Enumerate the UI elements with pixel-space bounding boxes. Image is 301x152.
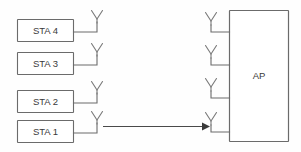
station-label-sta-1: STA 1: [33, 126, 58, 137]
antenna-icon-ap-3: [206, 79, 230, 99]
antenna-icon-ap-4: [206, 113, 230, 133]
station-lead-sta-3: [74, 55, 98, 65]
access-point-group: AP: [206, 11, 289, 142]
antenna-icon-ap-1: [206, 13, 230, 33]
antenna-icon-sta-1: [92, 112, 103, 125]
antenna-icon-sta-4: [92, 11, 103, 24]
network-diagram: STA 4 STA 3 STA 2: [0, 0, 301, 152]
station-label-sta-4: STA 4: [33, 25, 58, 36]
access-point-label: AP: [253, 70, 266, 81]
station-label-sta-2: STA 2: [33, 96, 58, 107]
uplink-arrow-head: [202, 123, 210, 131]
station-lead-sta-4: [74, 22, 98, 32]
station-label-sta-3: STA 3: [33, 58, 58, 69]
station-group-sta-2: STA 2: [18, 82, 103, 113]
antenna-icon-sta-3: [92, 44, 103, 57]
station-group-sta-3: STA 3: [18, 44, 103, 75]
station-group-sta-1: STA 1: [18, 112, 103, 143]
uplink-arrow: [103, 123, 210, 131]
station-lead-sta-2: [74, 93, 98, 103]
station-lead-sta-1: [74, 123, 98, 133]
station-group-sta-4: STA 4: [18, 11, 103, 42]
antenna-icon-ap-2: [206, 46, 230, 66]
antenna-icon-sta-2: [92, 82, 103, 95]
diagram-canvas: STA 4 STA 3 STA 2: [0, 0, 301, 152]
